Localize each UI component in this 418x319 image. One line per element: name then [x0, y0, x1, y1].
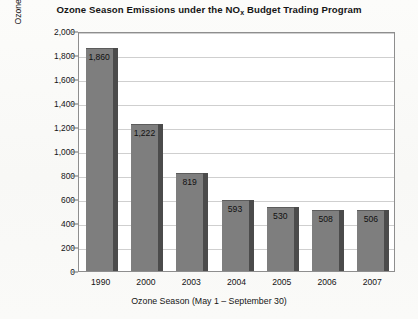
y-axis-tick-label: 1,000 — [35, 147, 75, 157]
bar-side-face — [203, 173, 208, 271]
bar-value-label: 1,222 — [131, 128, 158, 138]
bar-value-label: 1,860 — [86, 52, 113, 62]
y-axis-tick-label: 1,600 — [35, 75, 75, 85]
chart-title: Ozone Season Emissions under the NOx Bud… — [0, 4, 418, 15]
y-axis-title-line1: Ozone Season NOx Emissions — [12, 0, 25, 24]
bar-value-label: 819 — [176, 177, 203, 187]
bar-side-face — [113, 48, 118, 271]
y-axis-tick-label: 1,800 — [35, 51, 75, 61]
bar[interactable]: 1,860 — [86, 48, 118, 271]
bar[interactable]: 819 — [176, 173, 208, 271]
x-axis-tick-label: 2006 — [302, 277, 352, 287]
bar[interactable]: 593 — [222, 200, 254, 271]
y-axis-title-line1-before: Ozone Season NO — [13, 0, 23, 24]
gridline — [79, 33, 394, 34]
gridline — [79, 105, 394, 106]
chart-container: Ozone Season Emissions under the NOx Bud… — [0, 0, 418, 319]
plot-inner: 1,8601,222819593530508506 — [79, 33, 394, 271]
x-axis-tick-label: 2003 — [166, 277, 216, 287]
gridline — [79, 81, 394, 82]
x-axis-title: Ozone Season (May 1 – September 30) — [0, 296, 418, 306]
y-axis-tick-label: 600 — [35, 195, 75, 205]
gridline — [79, 129, 394, 130]
x-axis-tick-label: 1990 — [76, 277, 126, 287]
y-axis-tick-label: 0 — [35, 267, 75, 277]
bar-value-label: 508 — [312, 214, 339, 224]
x-axis-tick-label: 2005 — [257, 277, 307, 287]
bar-side-face — [384, 210, 389, 271]
y-axis-title: Ozone Season NOx Emissions (Thousand Ton… — [11, 0, 37, 72]
y-axis-tick-label: 200 — [35, 243, 75, 253]
y-axis-tick-label: 1,200 — [35, 123, 75, 133]
bar[interactable]: 1,222 — [131, 124, 163, 271]
x-axis-tick-label: 2000 — [121, 277, 171, 287]
x-axis-tick-label: 2007 — [347, 277, 397, 287]
gridline — [79, 177, 394, 178]
y-axis-tick-label: 1,400 — [35, 99, 75, 109]
chart-title-subscript: x — [240, 9, 244, 16]
bar[interactable]: 530 — [267, 207, 299, 271]
y-axis-title-lines: Ozone Season NOx Emissions (Thousand Ton… — [12, 0, 37, 24]
bar-value-label: 530 — [267, 211, 294, 221]
chart-title-text-after: Budget Trading Program — [244, 4, 361, 15]
bar[interactable]: 506 — [357, 210, 389, 271]
bar-side-face — [294, 207, 299, 271]
bar-side-face — [158, 124, 163, 271]
y-axis-tick-label: 2,000 — [35, 27, 75, 37]
plot-area: 1,8601,222819593530508506 — [78, 32, 395, 272]
y-axis-tick-label: 400 — [35, 219, 75, 229]
bar-side-face — [249, 200, 254, 271]
y-axis-tick-label: 800 — [35, 171, 75, 181]
bar-value-label: 506 — [357, 214, 384, 224]
bar[interactable]: 508 — [312, 210, 344, 271]
x-axis-tick-label: 2004 — [212, 277, 262, 287]
bar-side-face — [339, 210, 344, 271]
bar-value-label: 593 — [222, 204, 249, 214]
gridline — [79, 57, 394, 58]
gridline — [79, 153, 394, 154]
chart-title-text-before: Ozone Season Emissions under the NO — [56, 4, 240, 15]
